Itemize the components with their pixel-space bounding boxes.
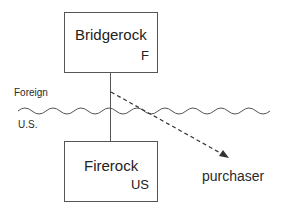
arrowhead-icon <box>219 150 229 158</box>
firerock-tag: US <box>131 177 149 192</box>
bridgerock-name: Bridgerock <box>75 26 147 43</box>
bridgerock-box: Bridgerock F <box>64 12 158 73</box>
us-label: U.S. <box>18 119 37 130</box>
firerock-name: Firerock <box>84 157 138 174</box>
firerock-box: Firerock US <box>64 141 158 202</box>
bridgerock-tag: F <box>141 48 149 63</box>
purchaser-label: purchaser <box>202 168 264 184</box>
foreign-label: Foreign <box>14 87 48 98</box>
